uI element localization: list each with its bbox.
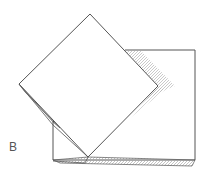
folded-paper-diagram xyxy=(0,0,206,175)
panel-label: B xyxy=(9,140,17,154)
